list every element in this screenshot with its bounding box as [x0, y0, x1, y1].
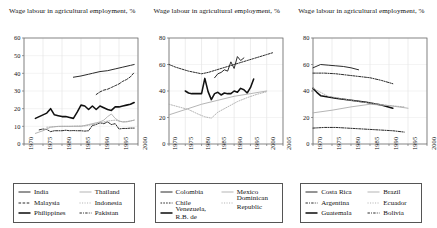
legend-label: Pakistan [95, 209, 119, 217]
x-tick-label: 2000 [430, 137, 437, 150]
legend-line-swatch-icon [79, 199, 92, 207]
x-axis-labels: 19701975198019851990199520002005 [145, 149, 290, 181]
x-tick-label: 1990 [236, 137, 243, 150]
legend-line-swatch-icon [221, 209, 234, 217]
legend-item[interactable]: Ecuador [367, 198, 417, 209]
x-tick-label: 1975 [187, 137, 194, 150]
panel-asia: Wage labour in agricultural employment, … [0, 0, 145, 228]
plot-area: 0102030405060 [0, 34, 145, 149]
series-line-philippines [35, 102, 134, 118]
legend-line-swatch-icon [221, 199, 234, 207]
y-tick-label: 0 [306, 140, 309, 147]
y-tick-label: 10 [14, 123, 20, 130]
legend-item[interactable]: Pakistan [79, 208, 130, 219]
legend-item[interactable]: Dominican Republic [221, 198, 278, 209]
y-tick-label: 50 [14, 52, 20, 59]
legend-label: Brazil [383, 188, 400, 196]
legend-line-swatch-icon [305, 188, 318, 196]
legend-item[interactable]: Venezuela, R.B. de [160, 208, 216, 219]
legend-line-swatch-icon [160, 199, 173, 207]
y-tick-label: 60 [14, 34, 20, 41]
legend-line-swatch-icon [305, 199, 318, 207]
y-tick-label: 40 [303, 87, 309, 94]
legend-item[interactable]: Costa Rica [305, 187, 362, 198]
legend-line-swatch-icon [18, 209, 31, 217]
legend-item[interactable]: Brazil [367, 187, 417, 198]
legend-item[interactable]: Argentina [305, 198, 362, 209]
x-tick-label: 1975 [46, 137, 53, 150]
series-line-brazil [313, 104, 408, 113]
x-tick-label: 1985 [84, 137, 91, 150]
panel-title: Wage labour in agricultural employment, … [298, 7, 428, 16]
series-line-costa-rica [313, 65, 359, 70]
gridlines [24, 38, 138, 144]
legend-line-swatch-icon [79, 188, 92, 196]
x-axis-labels: 1970197519801985199019952000 [0, 149, 145, 181]
legend-label: Guatemala [321, 209, 351, 217]
legend-item[interactable]: India [18, 187, 74, 198]
x-tick-label: 1970 [316, 137, 323, 150]
legend-line-swatch-icon [18, 188, 31, 196]
y-tick-label: 0 [17, 140, 20, 147]
y-tick-label: 80 [303, 34, 309, 41]
y-tick-label: 60 [159, 61, 165, 68]
legend-label: Bolivia [383, 209, 404, 217]
x-tick-label: 1985 [220, 137, 227, 150]
legend-line-swatch-icon [367, 188, 380, 196]
x-tick-label: 1995 [253, 137, 260, 150]
y-tick-label: 20 [159, 114, 165, 121]
x-tick-label: 1995 [122, 137, 129, 150]
y-tick-label: 20 [303, 114, 309, 121]
series-line-argentina [313, 73, 393, 84]
y-tick-label: 60 [303, 61, 309, 68]
legend-label: Argentina [321, 199, 349, 207]
x-tick-label: 1980 [354, 137, 361, 150]
legend-item[interactable]: Indonesia [79, 198, 130, 209]
y-tick-label: 80 [159, 34, 165, 41]
plot-area: 020406080 [145, 34, 290, 149]
panel-title: Wage labour in agricultural employment, … [154, 7, 284, 16]
legend-item[interactable]: Colombia [160, 187, 216, 198]
legend-item[interactable]: Malaysia [18, 198, 74, 209]
plot-area: 020406080 [289, 34, 434, 149]
x-tick-label: 1985 [373, 137, 380, 150]
legend-line-swatch-icon [367, 209, 380, 217]
y-tick-label: 20 [14, 105, 20, 112]
x-tick-label: 1990 [103, 137, 110, 150]
legend: IndiaThailandMalaysiaIndonesiaPhilippine… [13, 183, 135, 223]
legend-item[interactable]: Guatemala [305, 208, 362, 219]
legend-line-swatch-icon [79, 209, 92, 217]
legend-item[interactable]: Bolivia [367, 208, 417, 219]
series-line-india [73, 65, 134, 78]
legend-line-swatch-icon [367, 199, 380, 207]
legend-item[interactable]: Thailand [79, 187, 130, 198]
series-line-chile [169, 53, 273, 74]
legend-label: Colombia [176, 188, 204, 196]
y-tick-label: 40 [159, 87, 165, 94]
legend-item[interactable]: Philippines [18, 208, 74, 219]
x-tick-label: 1970 [27, 137, 34, 150]
legend: Costa RicaBrazilArgentinaEcuadorGuatemal… [300, 183, 422, 223]
x-tick-label: 2000 [269, 137, 276, 150]
x-tick-label: 1995 [411, 137, 418, 150]
legend-line-swatch-icon [18, 199, 31, 207]
y-tick-label: 0 [162, 140, 165, 147]
legend-label: Indonesia [95, 199, 122, 207]
x-tick-label: 1970 [171, 137, 178, 150]
legend-label: Philippines [34, 209, 66, 217]
x-tick-label: 1990 [392, 137, 399, 150]
y-tick-label: 30 [14, 87, 20, 94]
x-axis-labels: 1970197519801985199019952000 [289, 149, 434, 181]
legend-label: Costa Rica [321, 188, 352, 196]
panel-latam-north: Wage labour in agricultural employment, … [145, 0, 290, 228]
panel-latam-south: Wage labour in agricultural employment, … [289, 0, 434, 228]
x-tick-label: 1980 [65, 137, 72, 150]
gridlines [313, 38, 427, 144]
legend-line-swatch-icon [305, 209, 318, 217]
x-tick-label: 1980 [204, 137, 211, 150]
series-line-bolivia [313, 127, 404, 132]
legend: ColombiaMexicoChileDominican RepublicVen… [155, 183, 283, 223]
series-line-venezuela-r-b-de [185, 78, 253, 99]
legend-item[interactable] [221, 208, 278, 219]
